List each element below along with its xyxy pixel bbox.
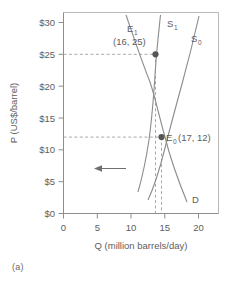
y-tick-label-0: $0: [44, 208, 55, 219]
x-axis-label: Q (million barrels/day): [95, 240, 188, 251]
economics-supply-demand-figure: $0 $5 $10 $15 $20 $25 $30 0 5 10 15 20 Q…: [0, 0, 233, 289]
chart-canvas: $0 $5 $10 $15 $20 $25 $30 0 5 10 15 20 Q…: [0, 0, 233, 289]
y-axis-label: P (US$/barrel): [8, 83, 19, 144]
label-s0-subscript: 0: [198, 39, 202, 46]
label-e0-coords: (17, 12): [178, 132, 211, 143]
label-e0-name: E: [166, 132, 172, 143]
x-tick-label-0: 0: [61, 222, 66, 233]
x-axis-ticks: [64, 214, 199, 219]
y-tick-label-5: $5: [44, 176, 55, 187]
label-s1-subscript: 1: [174, 24, 178, 31]
x-tick-label-20: 20: [193, 222, 204, 233]
y-tick-label-20: $20: [39, 81, 55, 92]
label-s0-name: S: [191, 33, 197, 44]
x-tick-label-15: 15: [160, 222, 171, 233]
y-tick-label-15: $15: [39, 113, 55, 124]
y-tick-label-25: $25: [39, 49, 55, 60]
equilibrium-point-e1: [152, 51, 158, 57]
y-axis-ticks: [59, 23, 64, 214]
x-tick-label-5: 5: [95, 222, 100, 233]
label-demand: D: [192, 194, 199, 205]
label-e0-subscript: 0: [173, 138, 177, 145]
label-s1: S 1: [167, 18, 178, 31]
label-e1: E 1 (16, 25): [113, 23, 146, 47]
label-e1-subscript: 1: [134, 29, 138, 36]
y-tick-label-10: $10: [39, 144, 55, 155]
label-e1-coords: (16, 25): [113, 36, 146, 47]
label-e0: E 0 (17, 12): [166, 132, 211, 145]
supply-shift-arrow: [94, 165, 126, 171]
label-e1-name: E: [127, 23, 133, 34]
x-tick-label-10: 10: [126, 222, 137, 233]
figure-caption: (a): [12, 262, 24, 272]
equilibrium-point-e0: [158, 134, 164, 140]
y-tick-label-30: $30: [39, 17, 55, 28]
label-s1-name: S: [167, 18, 173, 29]
